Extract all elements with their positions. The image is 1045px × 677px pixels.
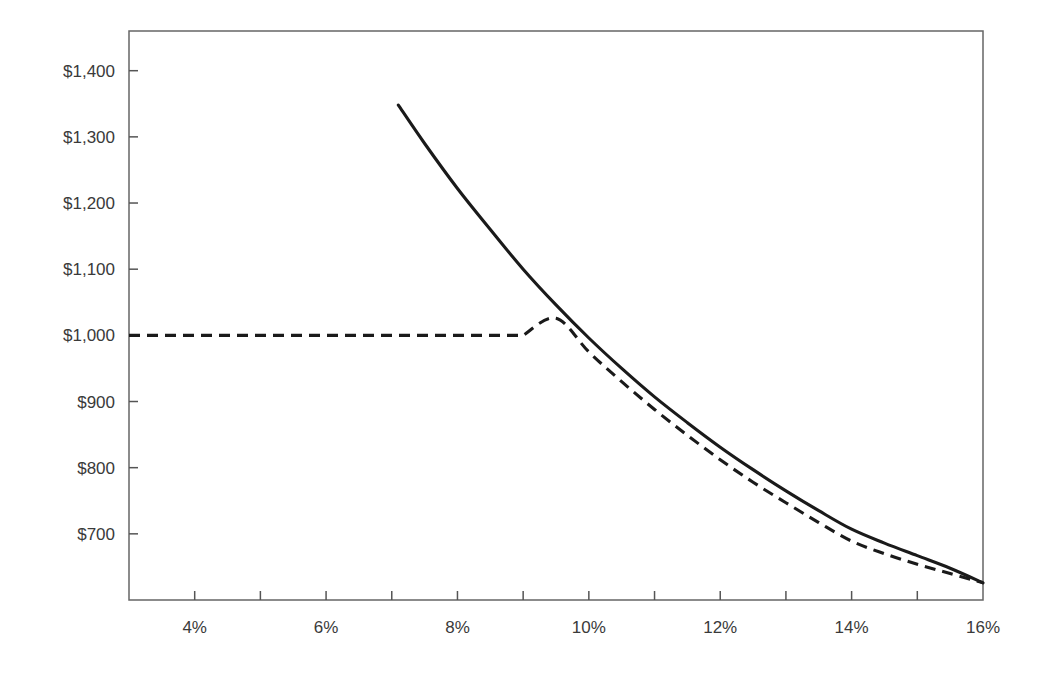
x-tick-label: 14% <box>835 618 869 637</box>
chart-container: $1,400$1,300$1,200$1,100$1,000$900$800$7… <box>0 0 1045 677</box>
plot-area-background <box>129 31 983 600</box>
x-tick-label: 16% <box>966 618 1000 637</box>
x-tick-label: 6% <box>314 618 339 637</box>
y-tick-label: $900 <box>77 393 115 412</box>
chart-svg: $1,400$1,300$1,200$1,100$1,000$900$800$7… <box>0 0 1045 677</box>
x-tick-label: 12% <box>703 618 737 637</box>
y-tick-label: $700 <box>77 525 115 544</box>
y-tick-label: $1,000 <box>63 326 115 345</box>
x-tick-label: 8% <box>445 618 470 637</box>
y-tick-label: $1,300 <box>63 128 115 147</box>
y-tick-label: $1,200 <box>63 194 115 213</box>
y-tick-label: $1,100 <box>63 260 115 279</box>
y-tick-label: $1,400 <box>63 62 115 81</box>
y-tick-label: $800 <box>77 459 115 478</box>
x-tick-label: 10% <box>572 618 606 637</box>
x-tick-label: 4% <box>182 618 207 637</box>
